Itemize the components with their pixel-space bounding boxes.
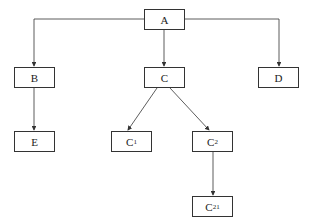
node-c2-label: C (207, 136, 214, 148)
node-c: C (144, 67, 185, 88)
node-b: B (14, 67, 55, 88)
node-e-label: E (31, 136, 38, 148)
node-c2: C2 (192, 131, 233, 152)
edge-c-c1 (128, 88, 157, 130)
edge-c-c2 (170, 88, 209, 130)
node-c1: C1 (111, 131, 152, 152)
node-c21-subscript: 21 (213, 203, 220, 211)
node-a-label: A (161, 14, 169, 26)
node-c2-subscript: 2 (214, 138, 218, 146)
node-c1-label: C (126, 136, 133, 148)
tree-diagram: A B C D E C1 C2 C21 (0, 0, 309, 219)
node-e: E (14, 131, 55, 152)
node-a: A (144, 9, 185, 30)
edge-a-d (185, 19, 279, 66)
edge-a-b (34, 19, 144, 66)
node-c1-subscript: 1 (133, 138, 137, 146)
node-d: D (258, 67, 299, 88)
node-b-label: B (31, 72, 38, 84)
edges-layer (0, 0, 309, 219)
node-c-label: C (161, 72, 168, 84)
node-d-label: D (275, 72, 283, 84)
node-c21-label: C (205, 201, 212, 213)
node-c21: C21 (192, 196, 233, 217)
